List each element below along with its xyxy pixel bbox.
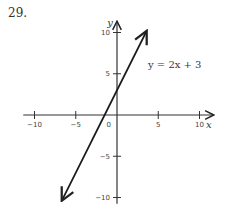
y-tick-label: −10 [95,194,110,202]
line-y-equals-2x-plus-3 [62,31,147,201]
x-tick-label: −5 [71,121,81,129]
coordinate-plane: −10−5510105−5−100xyy = 2x + 3 [0,0,236,212]
x-axis-label: x [206,119,212,130]
x-tick-label: 5 [156,121,160,129]
y-tick-label: 10 [101,29,110,37]
y-tick-label: −5 [100,153,110,161]
equation-label: y = 2x + 3 [147,59,202,70]
x-tick-label: 10 [195,121,204,129]
y-axis-label: y [106,17,113,28]
x-tick-label: −10 [27,121,42,129]
origin-label: 0 [107,121,111,129]
axis-labels: −10−5510105−5−100xyy = 2x + 3 [27,17,212,202]
line-series [62,31,147,201]
axes [23,21,214,204]
y-tick-label: 5 [106,70,110,78]
